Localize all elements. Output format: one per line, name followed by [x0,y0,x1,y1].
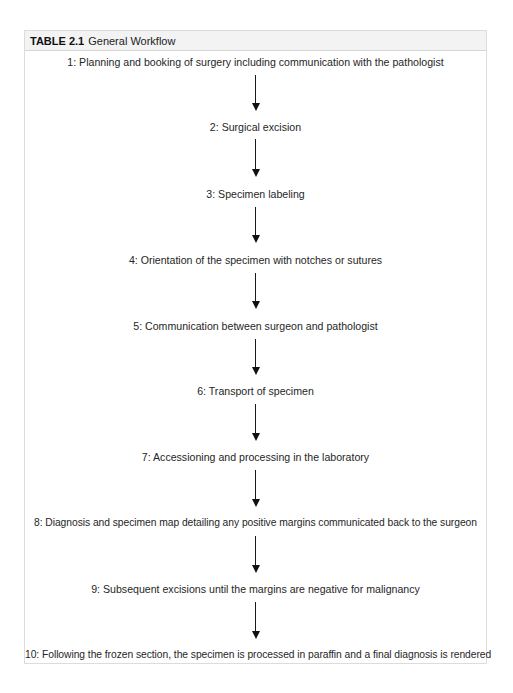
down-arrow-icon [252,470,260,507]
down-arrow-icon [252,207,260,243]
workflow-table: TABLE 2.1 General Workflow 1: Planning a… [24,30,487,664]
workflow-step-3: 3: Specimen labeling [25,187,486,201]
workflow-step-4: 4: Orientation of the specimen with notc… [25,253,486,267]
down-arrow-icon [252,75,260,111]
workflow-step-6: 6: Transport of specimen [25,384,486,398]
down-arrow-icon [252,602,260,639]
table-title: General Workflow [88,35,175,47]
table-number: TABLE 2.1 [30,35,84,47]
down-arrow-icon [252,536,260,573]
down-arrow-icon [252,404,260,441]
down-arrow-icon [252,273,260,309]
workflow-step-1: 1: Planning and booking of surgery inclu… [25,55,486,69]
workflow-step-10: 10: Following the frozen section, the sp… [25,648,486,662]
workflow-step-8: 8: Diagnosis and specimen map detailing … [25,516,486,530]
down-arrow-icon [252,339,260,375]
workflow-step-7: 7: Accessioning and processing in the la… [25,450,486,464]
table-header: TABLE 2.1 General Workflow [25,31,486,51]
workflow-step-2: 2: Surgical excision [25,120,486,134]
down-arrow-icon [252,139,260,177]
workflow-step-5: 5: Communication between surgeon and pat… [25,319,486,333]
workflow-step-9: 9: Subsequent excisions until the margin… [25,582,486,596]
